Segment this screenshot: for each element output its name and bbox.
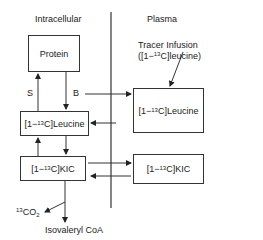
pl-kic-prefix: [1− (147, 164, 160, 174)
co2-main: CO (23, 207, 37, 217)
ic-kic-prefix: [1− (31, 164, 44, 174)
plasma-kic-node: [1−13C]KIC (133, 154, 204, 184)
protein-label: Protein (40, 49, 69, 59)
ic-leucine-prefix: [1− (25, 119, 38, 129)
intracellular-kic-node: [1−13C]KIC (20, 156, 86, 181)
tracer-infusion-line1: Tracer Infusion (138, 41, 198, 50)
synthesis-label: S (27, 89, 33, 98)
plasma-label: Plasma (147, 15, 177, 24)
tracer-infusion-line2: ([1−13C]leucine) (138, 52, 201, 61)
isovaleryl-coa-product: Isovaleryl CoA (45, 226, 103, 235)
pl-leucine-prefix: [1− (139, 106, 152, 116)
ic-kic-isotope: 13 (44, 165, 51, 171)
co2-product: 13CO2 (16, 208, 40, 217)
ic-kic-suffix: C]KIC (51, 164, 75, 174)
pl-leucine-isotope: 13 (151, 107, 158, 113)
intracellular-label: Intracellular (35, 15, 82, 24)
tracer-prefix: ([1− (138, 51, 154, 61)
tracer-suffix: C]leucine) (160, 51, 201, 61)
co2-subscript: 2 (36, 212, 39, 218)
pl-kic-suffix: C]KIC (166, 164, 190, 174)
intracellular-leucine-node: [1−13C]Leucine (20, 111, 89, 136)
plasma-leucine-node: [1−13C]Leucine (133, 88, 204, 133)
ic-leucine-isotope: 13 (37, 120, 44, 126)
tracer-isotope: 13 (154, 51, 161, 57)
ic-leucine-suffix: C]Leucine (44, 119, 85, 129)
breakdown-label: B (73, 89, 79, 98)
co2-isotope: 13 (16, 207, 23, 213)
protein-node: Protein (28, 35, 80, 72)
pl-kic-isotope: 13 (160, 165, 167, 171)
pl-leucine-suffix: C]Leucine (158, 106, 199, 116)
